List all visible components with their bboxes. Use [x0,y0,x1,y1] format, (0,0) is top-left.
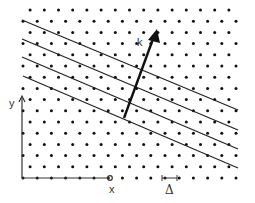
lattice-point [78,87,81,90]
lattice-point [57,76,60,79]
lattice-point [85,165,88,168]
lattice-point [156,165,159,168]
lattice-point [57,9,60,12]
lattice-point [57,98,60,101]
lattice-point [93,109,96,112]
lattice-point [43,165,46,168]
lattice-point [164,87,167,90]
lattice-point [57,31,60,34]
lattice-point [29,53,32,56]
lattice-point [220,177,223,180]
lattice-point [85,98,88,101]
lattice-point [220,132,223,135]
wavefront-line [22,39,238,130]
lattice-point [171,76,174,79]
lattice-point [93,154,96,157]
lattice-point [227,121,230,124]
lattice-point [121,65,124,68]
lattice-point [100,165,103,168]
lattice-point [199,121,202,124]
lattice-point [36,87,39,90]
lattice-point [171,31,174,34]
lattice-point [107,42,110,45]
lattice-point [142,165,145,168]
lattice-point [206,109,209,112]
lattice-point [114,53,117,56]
lattice-point [43,76,46,79]
lattice-point [50,132,53,135]
y-axis-label: y [9,97,15,109]
lattice-point [142,31,145,34]
lattice-point [100,143,103,146]
lattice-point [156,53,159,56]
lattice-point [235,177,238,180]
lattice-point [156,143,159,146]
lattice-point [29,143,32,146]
lattice-point [29,98,32,101]
lattice-point [22,65,25,68]
lattice-point [85,31,88,34]
lattice-point [149,20,152,23]
delta-spacing-marker [162,175,177,181]
lattice-point [57,165,60,168]
lattice-point [93,65,96,68]
lattice-point [185,98,188,101]
lattice-point [78,109,81,112]
lattice-point [107,154,110,157]
lattice-point [156,9,159,12]
lattice-point [156,98,159,101]
lattice-point [142,143,145,146]
lattice-point [107,132,110,135]
lattice-point [185,53,188,56]
x-axis-label: x [109,183,115,195]
lattice-point [199,143,202,146]
lattice-point [29,9,32,12]
lattice-point [220,87,223,90]
lattice-point [71,121,74,124]
lattice-point [192,65,195,68]
lattice-point [43,9,46,12]
lattice-point [206,87,209,90]
lattice-point [128,9,131,12]
lattice-point [213,165,216,168]
lattice-point [178,42,181,45]
lattice-point [199,76,202,79]
lattice-point [114,9,117,12]
lattice-point [36,132,39,135]
lattice-point [135,20,138,23]
lattice-point [114,143,117,146]
lattice-point [78,65,81,68]
lattice-point [149,132,152,135]
lattice-point [149,154,152,157]
lattice-point [71,53,74,56]
lattice-point [192,177,195,180]
lattice-point [36,20,39,23]
lattice-point [36,109,39,112]
lattice-point [43,53,46,56]
lattice-point [213,31,216,34]
lattice-point [22,42,25,45]
lattice-point [199,9,202,12]
lattice-point [121,87,124,90]
lattice-point [93,20,96,23]
lattice-point [128,53,131,56]
lattice-point [29,31,32,34]
lattice-point [100,121,103,124]
lattice-point [71,143,74,146]
lattice-point [64,109,67,112]
lattice-point [50,65,53,68]
lattice-point [235,87,238,90]
lattice-point [100,76,103,79]
lattice-point [156,121,159,124]
lattice-diagram: k y x Δ [0,0,255,203]
lattice-point [220,20,223,23]
lattice-point [43,143,46,146]
lattice-point [220,109,223,112]
lattice-point [149,87,152,90]
lattice-point [185,9,188,12]
lattice-point [227,165,230,168]
lattice-point [64,132,67,135]
lattice-point [128,165,131,168]
lattice-point [135,132,138,135]
lattice-point [142,9,145,12]
